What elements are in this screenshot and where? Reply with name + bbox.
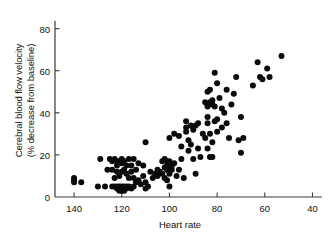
data-point [97,156,103,162]
data-points [71,53,284,194]
data-point [190,156,196,162]
data-point [259,76,265,82]
data-point [131,156,137,162]
data-point [171,160,177,166]
data-point [216,95,222,101]
data-point [224,87,230,93]
data-point [205,114,211,120]
data-point [228,101,234,107]
data-point [133,167,139,173]
data-point [166,183,172,189]
data-point [183,118,189,124]
data-point [214,116,220,122]
data-point [71,179,77,185]
data-point [212,104,218,110]
data-point [188,141,194,147]
plot-area [0,0,335,239]
data-point [221,110,227,116]
data-point [214,129,220,135]
data-point [205,146,211,152]
data-point [140,173,146,179]
data-point [166,135,172,141]
data-point [207,87,213,93]
data-point [176,133,182,139]
data-point [278,53,284,59]
data-point [214,80,220,86]
data-point [205,120,211,126]
data-point [226,135,232,141]
data-point [197,154,203,160]
data-point [250,82,256,88]
data-point [209,139,215,145]
data-point [169,167,175,173]
data-point [212,70,218,76]
data-point [164,177,170,183]
data-point [233,74,239,80]
data-point [255,59,261,65]
data-point [195,120,201,126]
data-point [178,143,184,149]
data-point [181,175,187,181]
data-point [207,131,213,137]
data-point [145,183,151,189]
data-point [219,125,225,131]
data-point [224,120,230,126]
data-point [264,66,270,72]
data-point [95,183,101,189]
axes [55,21,322,197]
data-point [202,135,208,141]
data-point [143,139,149,145]
data-point [209,154,215,160]
data-point [128,162,134,168]
data-point [240,135,246,141]
data-point [186,148,192,154]
data-point [78,179,84,185]
data-point [140,162,146,168]
data-point [267,74,273,80]
data-point [178,156,184,162]
data-point [195,146,201,152]
data-point [231,91,237,97]
data-point [193,171,199,177]
data-point [176,167,182,173]
data-point [238,150,244,156]
data-point [102,183,108,189]
data-point [238,114,244,120]
data-point [183,129,189,135]
data-point [174,173,180,179]
scatter-chart-figure: Cerebral blood flow velocity (% decrease… [0,0,335,239]
